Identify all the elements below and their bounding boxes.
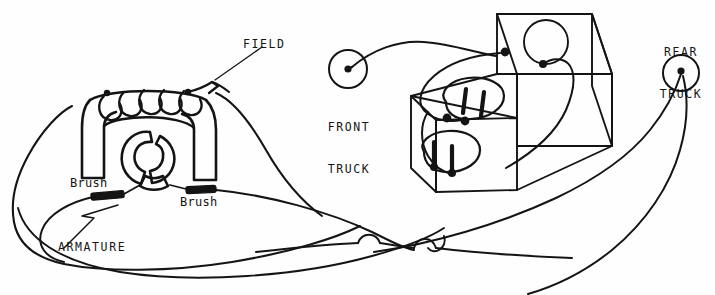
brush-lead-right (170, 185, 186, 189)
terminal-post-2 (481, 92, 484, 116)
field-coil-terminal-left (104, 90, 110, 96)
wiring-diagram-canvas: FIELD FRONT TRUCK REAR TRUCK Brush Brush… (0, 0, 715, 295)
wire-controller-loop-left (420, 53, 500, 121)
terminal-post-1 (463, 89, 466, 113)
front-truck-label-line2: TRUCK (313, 162, 385, 176)
rear-truck-label: REAR TRUCK (648, 17, 714, 129)
field-label-leader (215, 47, 262, 80)
wire-crossover-hop-1 (358, 235, 380, 243)
armature-label: ARMATURE (58, 240, 126, 254)
brush-label-right: Brush (180, 195, 218, 210)
brush-lead-left (124, 185, 140, 194)
front-truck-terminal-dot (344, 65, 351, 72)
front-truck-label-line1: FRONT (313, 120, 385, 134)
brush-contact-right (186, 185, 216, 194)
controller-low-bottom-edge (517, 146, 612, 190)
field-label: FIELD (243, 37, 286, 51)
wire-return-lower (256, 243, 358, 252)
armature-rotor (122, 132, 175, 190)
controller-box-front-face (517, 74, 612, 146)
controller-box-right-face (592, 14, 612, 146)
controller-top-circle (524, 20, 568, 64)
field-lead-wire-2 (212, 82, 229, 92)
controller-low-front-face (436, 118, 517, 192)
wire-return-to-rear (436, 248, 572, 258)
wire-front-truck-to-controller (352, 42, 496, 67)
brush-label-left: Brush (70, 176, 108, 191)
rear-truck-label-line1: REAR (648, 45, 714, 59)
brush-contact-left (91, 191, 124, 201)
rear-truck-label-line2: TRUCK (648, 87, 714, 101)
front-truck-label: FRONT TRUCK (313, 92, 385, 204)
